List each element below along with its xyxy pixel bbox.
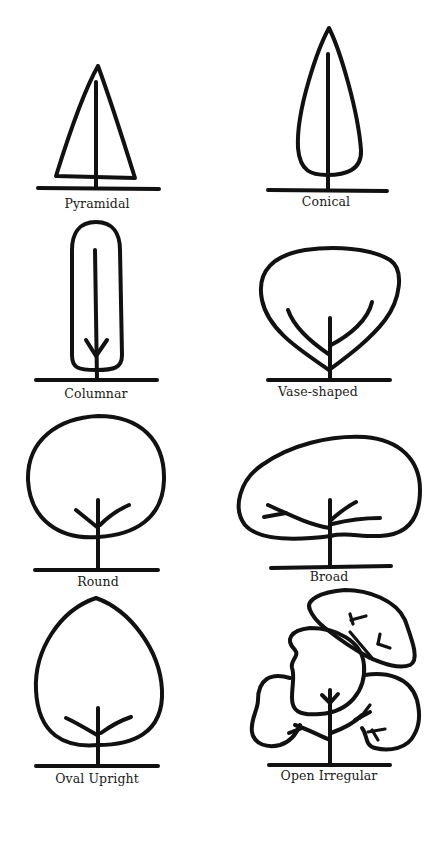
label-round: Round bbox=[77, 574, 119, 589]
label-open-irregular: Open Irregular bbox=[281, 768, 378, 783]
label-columnar: Columnar bbox=[64, 386, 127, 401]
tree-shapes-diagram bbox=[0, 0, 448, 847]
label-conical: Conical bbox=[302, 194, 350, 209]
pyramidal-tree-drawing bbox=[38, 66, 159, 189]
label-vase-shaped: Vase-shaped bbox=[278, 384, 358, 399]
open-irregular-tree-drawing bbox=[252, 590, 419, 765]
columnar-tree-drawing bbox=[36, 222, 157, 380]
label-broad: Broad bbox=[310, 569, 349, 584]
broad-tree-drawing bbox=[239, 437, 420, 568]
label-oval-upright: Oval Upright bbox=[55, 771, 139, 786]
label-pyramidal: Pyramidal bbox=[64, 196, 129, 211]
round-tree-drawing bbox=[28, 416, 164, 570]
vase-shaped-tree-drawing bbox=[261, 248, 399, 380]
conical-tree-drawing bbox=[268, 28, 387, 191]
oval-upright-tree-drawing bbox=[36, 598, 162, 766]
